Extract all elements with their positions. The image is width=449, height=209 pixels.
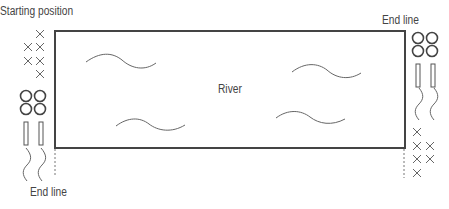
bar-icon <box>24 122 28 145</box>
squiggle-icon <box>38 148 45 181</box>
wave-icon <box>116 119 185 130</box>
circle-icon <box>21 91 32 102</box>
circle-icon <box>35 104 46 115</box>
left-rectangles <box>24 122 43 145</box>
bar-icon <box>39 122 43 145</box>
x-icon <box>36 30 44 38</box>
right-squiggles <box>415 88 438 120</box>
squiggle-icon <box>23 148 30 181</box>
circle-icon <box>413 46 424 57</box>
right-x-markers <box>413 128 434 177</box>
wave-icon <box>292 65 361 78</box>
x-icon <box>413 128 421 136</box>
x-icon <box>426 155 434 163</box>
river-waves <box>86 54 361 130</box>
x-icon <box>36 43 44 51</box>
right-circles <box>413 33 438 57</box>
x-icon <box>413 169 421 177</box>
left-circles <box>21 91 46 115</box>
x-icon <box>36 57 44 65</box>
x-icon <box>426 142 434 150</box>
left-squiggles <box>23 148 45 181</box>
circle-icon <box>21 104 32 115</box>
x-icon <box>413 142 421 150</box>
squiggle-icon <box>430 88 438 120</box>
bar-icon <box>431 64 435 87</box>
x-icon <box>413 155 421 163</box>
left-x-markers <box>24 30 44 78</box>
squiggle-icon <box>415 88 423 120</box>
x-icon <box>24 57 32 65</box>
river-diagram <box>0 0 449 209</box>
wave-icon <box>276 112 345 124</box>
bar-icon <box>416 64 420 87</box>
x-icon <box>24 43 32 51</box>
x-icon <box>36 70 44 78</box>
circle-icon <box>35 91 46 102</box>
circle-icon <box>413 33 424 44</box>
right-rectangles <box>416 64 435 87</box>
circle-icon <box>427 46 438 57</box>
circle-icon <box>427 33 438 44</box>
wave-icon <box>86 54 156 68</box>
river-area <box>55 31 405 148</box>
